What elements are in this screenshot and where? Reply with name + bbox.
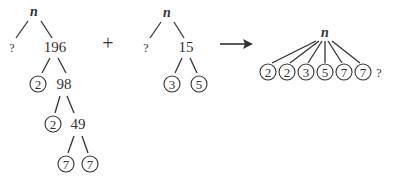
prime-7: 7 [63,157,70,172]
factor-tree-15: n ? 15 3 5 [143,5,207,92]
composite-196: 196 [44,39,67,55]
prime-5: 5 [322,65,329,80]
prime-7: 7 [87,157,94,172]
combined-factor-tree: n 2 2 3 5 7 7 ? [260,25,382,80]
plus-sign: + [102,32,113,54]
composite-98: 98 [57,76,72,92]
prime-3: 3 [169,77,176,92]
prime-2: 2 [265,65,272,80]
prime-2: 2 [284,65,291,80]
unknown-factor: ? [143,41,148,55]
prime-7: 7 [341,65,348,80]
arrow-icon [220,39,253,49]
composite-15: 15 [179,39,194,55]
prime-2: 2 [50,117,57,132]
prime-7: 7 [360,65,367,80]
composite-49: 49 [71,116,86,132]
unknown-factor: ? [376,66,381,80]
factor-tree-196: n ? 196 2 98 2 49 7 7 [9,4,98,172]
prime-3: 3 [303,65,310,80]
prime-5: 5 [196,77,203,92]
unknown-factor: ? [9,41,14,55]
root-n: n [30,4,38,19]
root-n: n [321,25,329,40]
root-n: n [163,5,171,20]
prime-factor-tree-diagram: n ? 196 2 98 2 49 7 7 + n ? 15 3 5 [0,0,396,188]
prime-2: 2 [35,77,42,92]
